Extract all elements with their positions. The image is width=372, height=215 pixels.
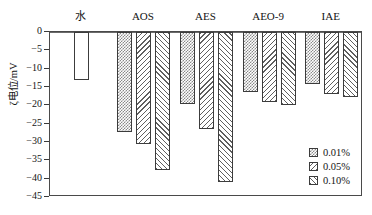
category-label-2: AES xyxy=(195,9,216,23)
y-tick-label: −25 xyxy=(26,118,42,128)
bar-IAE-0.05% xyxy=(324,32,339,94)
bar-水-baseline xyxy=(74,32,89,80)
y-tick-label: −20 xyxy=(26,99,42,109)
legend-item-0.10%: 0.10% xyxy=(309,174,350,187)
y-tick-label: −35 xyxy=(26,154,42,164)
y-tick-label: −40 xyxy=(26,173,42,183)
y-tick-label: −10 xyxy=(26,63,42,73)
legend-label: 0.05% xyxy=(323,161,350,172)
bar-AEO-9-0.01% xyxy=(243,32,258,92)
y-tick-label: −5 xyxy=(31,44,42,54)
legend-swatch-0.01% xyxy=(309,148,318,157)
plot-area: 0.01%0.05%0.10% xyxy=(49,31,362,196)
y-tick-label: −45 xyxy=(26,191,42,201)
legend-label: 0.10% xyxy=(323,175,350,186)
category-label-4: IAE xyxy=(322,9,340,23)
chart-figure: ζ电位/mV 0−5−10−15−20−25−30−35−40−45 水AOSA… xyxy=(0,0,372,215)
legend-item-0.01%: 0.01% xyxy=(309,146,350,159)
bar-AOS-0.01% xyxy=(117,32,132,132)
bar-AOS-0.05% xyxy=(136,32,151,144)
category-label-0: 水 xyxy=(75,9,86,23)
bar-AEO-9-0.05% xyxy=(262,32,277,102)
bar-AEO-9-0.10% xyxy=(281,32,296,105)
category-label-3: AEO-9 xyxy=(252,9,284,23)
y-tick-mark xyxy=(44,196,49,197)
y-axis-tick-labels: 0−5−10−15−20−25−30−35−40−45 xyxy=(0,0,49,215)
bar-IAE-0.10% xyxy=(343,32,358,97)
category-labels: 水AOSAESAEO-9IAE xyxy=(49,9,362,29)
category-label-1: AOS xyxy=(132,9,154,23)
chart-legend: 0.01%0.05%0.10% xyxy=(305,144,352,189)
legend-item-0.05%: 0.05% xyxy=(309,160,350,173)
bar-AES-0.05% xyxy=(199,32,214,129)
bar-IAE-0.01% xyxy=(305,32,320,84)
legend-swatch-0.10% xyxy=(309,176,318,185)
y-tick-label: −15 xyxy=(26,81,42,91)
y-tick-label: −30 xyxy=(26,136,42,146)
bar-AES-0.01% xyxy=(180,32,195,104)
y-tick-label: 0 xyxy=(37,26,42,36)
bar-AOS-0.10% xyxy=(155,32,170,170)
bar-AES-0.10% xyxy=(218,32,233,182)
legend-label: 0.01% xyxy=(323,147,350,158)
legend-swatch-0.05% xyxy=(309,162,318,171)
